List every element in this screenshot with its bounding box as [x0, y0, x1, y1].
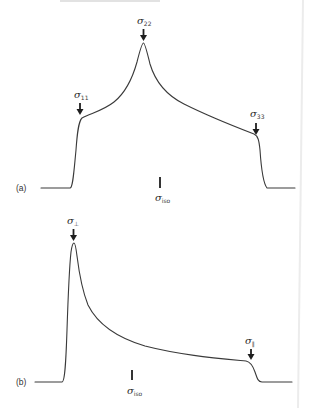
cropped-text-fragment — [60, 0, 160, 2]
sigma-parallel-label: σ∥ — [245, 335, 255, 348]
panel-b-spectrum-curve — [35, 243, 292, 382]
sigma-perp-arrow-icon — [70, 235, 77, 241]
page-fold-line — [298, 0, 303, 408]
sigma-11-label: σ11 — [74, 89, 89, 101]
panel-a-label: (a) — [16, 183, 27, 193]
sigma-33-label: σ33 — [250, 108, 265, 120]
powder-pattern-figure: (a) σ11 σ22 σ33 σiso (b) — [0, 0, 312, 408]
marker-sigma-33: σ33 — [250, 108, 265, 135]
marker-sigma-parallel: σ∥ — [245, 335, 255, 360]
sigma-11-arrow-icon — [77, 109, 84, 115]
marker-sigma-iso-a: σiso — [155, 177, 171, 204]
sigma-parallel-arrow-icon — [248, 354, 255, 360]
panel-b-label: (b) — [16, 377, 27, 387]
sigma-22-arrow-icon — [140, 35, 147, 41]
marker-sigma-iso-b: σiso — [127, 370, 143, 397]
panel-b: (b) σ⊥ σ∥ σiso — [16, 215, 292, 397]
marker-sigma-perp: σ⊥ — [67, 215, 79, 241]
sigma-iso-b-label: σiso — [127, 385, 143, 397]
marker-sigma-11: σ11 — [74, 89, 89, 115]
panel-a: (a) σ11 σ22 σ33 σiso — [16, 15, 295, 204]
sigma-iso-a-label: σiso — [155, 192, 171, 204]
sigma-22-label: σ22 — [137, 15, 152, 27]
sigma-perp-label: σ⊥ — [67, 215, 79, 227]
marker-sigma-22: σ22 — [137, 15, 152, 41]
